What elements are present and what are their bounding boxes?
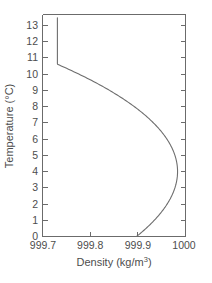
- y-tick-label: 3: [32, 181, 38, 193]
- y-tick-label: 13: [26, 19, 38, 31]
- y-tick-label: 6: [32, 133, 38, 145]
- y-tick-labels: 0 1 2 3 4 5 6 7 8 9 10 11 12 13: [26, 19, 38, 242]
- x-tick-label: 999.9: [125, 239, 151, 251]
- y-axis-title-text: Temperature (°C): [3, 84, 15, 168]
- x-tick-label: 999.7: [30, 239, 56, 251]
- x-tick-label: 999.8: [77, 239, 103, 251]
- y-tick-label: 9: [32, 84, 38, 96]
- y-tick-marks: [43, 25, 48, 236]
- x-tick-marks: [43, 232, 186, 237]
- plot-frame: [43, 15, 186, 237]
- chart-canvas: 0 1 2 3 4 5 6 7 8 9 10 11 12 13 999.7 99…: [0, 0, 212, 283]
- x-axis-title-tail: ): [148, 256, 152, 268]
- y-tick-label: 7: [32, 116, 38, 128]
- svg-text:Density (kg/m3): Density (kg/m3): [76, 255, 151, 268]
- y-tick-label: 10: [26, 68, 38, 80]
- y-tick-label: 8: [32, 100, 38, 112]
- density-temperature-figure: 0 1 2 3 4 5 6 7 8 9 10 11 12 13 999.7 99…: [0, 0, 212, 283]
- axis-left-bottom: [43, 15, 186, 237]
- water-density-curve: [57, 18, 177, 237]
- y-tick-label: 4: [32, 165, 38, 177]
- y-tick-label: 1: [32, 214, 38, 226]
- y-tick-label: 12: [26, 35, 38, 47]
- y-tick-label: 5: [32, 149, 38, 161]
- y-tick-label: 2: [32, 198, 38, 210]
- y-axis-title: Temperature (°C): [3, 84, 15, 168]
- x-axis-title: Density (kg/m3): [76, 255, 151, 268]
- y-tick-marks-right: [181, 25, 186, 236]
- x-tick-label: 1000: [172, 239, 196, 251]
- y-tick-label: 11: [27, 51, 38, 63]
- x-tick-labels: 999.7 999.8 999.9 1000: [30, 239, 196, 251]
- x-axis-title-base: Density (kg/m: [76, 256, 143, 268]
- data-series-group: [57, 18, 177, 237]
